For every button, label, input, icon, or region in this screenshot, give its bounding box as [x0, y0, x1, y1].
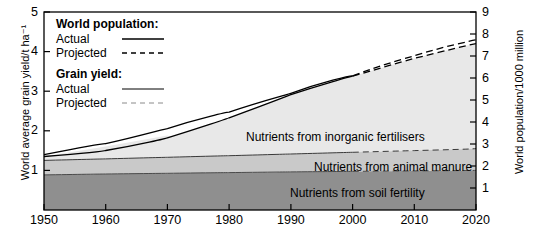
bottom-tick-1960: 1960	[86, 213, 126, 227]
right-axis-label: World population/1000 million	[513, 7, 525, 197]
legend-item-population-actual: Actual	[56, 32, 166, 46]
right-tick-1: 1	[482, 181, 489, 195]
legend-group-population-title: World population:	[56, 18, 166, 31]
bottom-tick-1970: 1970	[147, 213, 187, 227]
legend-item-population-projected: Projected	[56, 46, 166, 60]
bottom-tick-1980: 1980	[209, 213, 249, 227]
bottom-tick-2000: 2000	[333, 213, 373, 227]
figure-panel: 1 2 3 4 5 1 2 3 4 5 6 7 8 9 1950 1960 19…	[0, 0, 542, 240]
bottom-tick-1990: 1990	[271, 213, 311, 227]
legend-group-grain-yield-title: Grain yield:	[56, 68, 166, 81]
legend-label-population-actual: Actual	[56, 32, 120, 46]
bottom-tick-2010: 2010	[394, 213, 434, 227]
legend-label-population-projected: Projected	[56, 46, 120, 60]
band-label-soil-fertility: Nutrients from soil fertility	[290, 186, 425, 200]
left-axis-label: World average grain yield/t ha⁻¹	[19, 18, 32, 188]
legend-label-grain-yield-actual: Actual	[56, 82, 120, 96]
legend-swatch-solid-line-2-icon	[120, 84, 166, 94]
band-label-inorganic-fertilisers: Nutrients from inorganic fertilisers	[246, 130, 425, 144]
right-tick-7: 7	[482, 49, 489, 63]
right-tick-5: 5	[482, 93, 489, 107]
band-label-animal-manure: Nutrients from animal manure	[314, 160, 472, 174]
right-tick-8: 8	[482, 27, 489, 41]
legend-item-grain-yield-actual: Actual	[56, 82, 166, 96]
legend-item-grain-yield-projected: Projected	[56, 96, 166, 110]
legend-swatch-solid-line-icon	[120, 34, 166, 44]
bottom-tick-1950: 1950	[24, 213, 64, 227]
legend-label-grain-yield-projected: Projected	[56, 96, 120, 110]
legend-swatch-dashed-line-2-icon	[120, 98, 166, 108]
right-tick-2: 2	[482, 159, 489, 173]
right-tick-9: 9	[482, 5, 489, 19]
bottom-tick-2020: 2020	[456, 213, 496, 227]
right-tick-6: 6	[482, 71, 489, 85]
right-tick-4: 4	[482, 115, 489, 129]
legend-swatch-dashed-line-icon	[120, 48, 166, 58]
chart-legend: World population: Actual Projected Grain…	[56, 18, 166, 110]
right-tick-3: 3	[482, 137, 489, 151]
